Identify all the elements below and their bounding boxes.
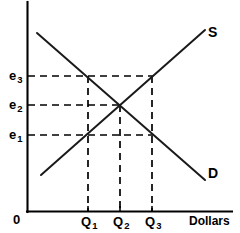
quantity-label-q3-sub: 3 [156, 220, 161, 231]
quantity-label-q2-sub: 2 [124, 220, 129, 231]
price-label-e1-base: e [9, 127, 16, 142]
price-label-e1: e1 [9, 128, 22, 141]
supply-curve [41, 30, 205, 175]
price-label-e2-base: e [9, 97, 16, 112]
demand-curve-label: D [208, 166, 218, 180]
price-label-e3-sub: 3 [17, 74, 22, 85]
price-label-e2-sub: 2 [17, 103, 22, 114]
supply-demand-diagram: S D Dollars 0 e3 e2 e1 Q1 Q2 Q3 [0, 0, 240, 233]
x-axis-label: Dollars [189, 215, 230, 227]
price-label-e3-base: e [9, 68, 16, 83]
quantity-label-q1-base: Q [81, 214, 91, 229]
quantity-label-q2-base: Q [113, 214, 123, 229]
quantity-label-q3-base: Q [145, 214, 155, 229]
origin-label: 0 [13, 213, 20, 226]
quantity-label-q1: Q1 [81, 215, 96, 228]
diagram-canvas [0, 0, 240, 233]
quantity-label-q3: Q3 [145, 215, 160, 228]
quantity-label-q2: Q2 [113, 215, 128, 228]
quantity-label-q1-sub: 1 [92, 220, 97, 231]
price-label-e1-sub: 1 [17, 133, 22, 144]
price-label-e3: e3 [9, 69, 22, 82]
price-label-e2: e2 [9, 98, 22, 111]
demand-curve [37, 33, 205, 180]
supply-curve-label: S [208, 25, 217, 39]
